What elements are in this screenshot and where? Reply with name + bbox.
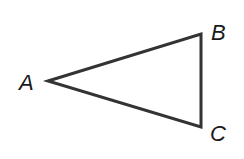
triangle-abc — [48, 34, 201, 127]
vertex-label-c: C — [210, 121, 226, 146]
vertex-label-a: A — [17, 70, 34, 95]
triangle-diagram: A B C — [0, 0, 244, 159]
vertex-label-b: B — [211, 20, 226, 45]
